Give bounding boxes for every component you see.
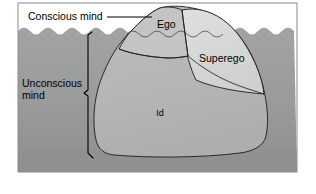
- diagram-canvas: Conscious mind Unconscious mind Ego Supe…: [0, 0, 316, 194]
- unconscious-mind-label-line2: mind: [22, 89, 45, 101]
- unconscious-mind-label-line1: Unconscious: [22, 77, 82, 89]
- framed-scene: Conscious mind Unconscious mind Ego Supe…: [18, 3, 297, 172]
- ego-label: Ego: [157, 18, 176, 30]
- conscious-mind-label: Conscious mind: [28, 10, 103, 22]
- superego-label: Superego: [199, 52, 245, 64]
- iceberg-diagram: Conscious mind Unconscious mind Ego Supe…: [0, 0, 316, 194]
- id-label: Id: [156, 108, 164, 118]
